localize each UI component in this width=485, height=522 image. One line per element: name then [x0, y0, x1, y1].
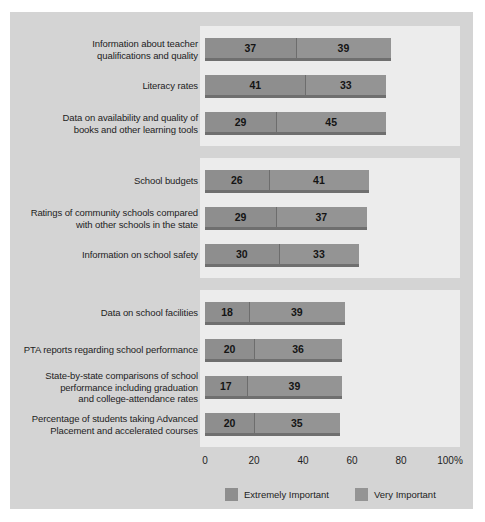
x-axis-tick-label: 60 [346, 455, 357, 466]
bar-row-label-line: Placement and accelerated courses [18, 424, 198, 436]
bar-row: State-by-state comparisons of schoolperf… [10, 376, 473, 398]
bar-value-extremely-important: 20 [205, 413, 254, 433]
bar-row: School budgets2641 [10, 170, 473, 192]
bar-row-label-line: qualifications and quality [18, 49, 198, 61]
bar-row-label-line: Ratings of community schools compared [18, 207, 198, 219]
x-axis-tick-label: 100% [437, 455, 463, 466]
bar-row-label: Data on school facilities [18, 307, 198, 319]
bar-row-label-line: Information on school safety [18, 249, 198, 261]
bar-value-extremely-important: 18 [205, 302, 249, 322]
bar-row-label: Percentage of students taking AdvancedPl… [18, 413, 198, 436]
bar-row: Information on school safety3033 [10, 244, 473, 266]
bar-row-label: Information on school safety [18, 249, 198, 261]
bar-shadow [205, 132, 386, 135]
bar-shadow [205, 227, 367, 230]
chart-card: Information about teacherqualifications … [10, 12, 473, 509]
bar-value-extremely-important: 20 [205, 339, 254, 359]
bar-row-label-line: State-by-state comparisons of school [18, 370, 198, 382]
bar-value-very-important: 41 [269, 170, 369, 190]
bar-row: Literacy rates4133 [10, 75, 473, 97]
legend-swatch [225, 488, 238, 501]
stacked-bar: 3033 [205, 244, 359, 266]
bar-value-very-important: 33 [279, 244, 360, 264]
bar-row: PTA reports regarding school performance… [10, 339, 473, 361]
x-axis: 020406080100% [10, 455, 473, 473]
bar-value-extremely-important: 37 [205, 38, 296, 58]
bar-shadow [205, 58, 391, 61]
x-axis-tick-label: 0 [202, 455, 208, 466]
bar-row-label: Data on availability and quality ofbooks… [18, 112, 198, 135]
bar-row-label: State-by-state comparisons of schoolperf… [18, 370, 198, 405]
bar-row-label: PTA reports regarding school performance [18, 344, 198, 356]
bar-row-label-line: Data on availability and quality of [18, 112, 198, 124]
stacked-bar: 1839 [205, 302, 345, 324]
stacked-bar: 2945 [205, 112, 386, 134]
chart-legend: Extremely ImportantVery Important [10, 486, 473, 506]
bar-shadow [205, 322, 345, 325]
bar-shadow [205, 433, 340, 436]
stacked-bar: 2036 [205, 339, 342, 361]
bar-row: Percentage of students taking AdvancedPl… [10, 413, 473, 435]
stacked-bar: 2035 [205, 413, 340, 435]
bar-value-extremely-important: 30 [205, 244, 279, 264]
stacked-bar: 4133 [205, 75, 386, 97]
bar-row: Data on availability and quality ofbooks… [10, 112, 473, 134]
legend-item[interactable]: Very Important [355, 486, 436, 502]
x-axis-tick-label: 20 [248, 455, 259, 466]
chart-figure: Information about teacherqualifications … [0, 0, 485, 522]
bar-row-label-line: books and other learning tools [18, 123, 198, 135]
bar-row-label-line: Information about teacher [18, 38, 198, 50]
bar-value-extremely-important: 41 [205, 75, 305, 95]
bar-shadow [205, 359, 342, 362]
legend-label: Very Important [374, 489, 436, 500]
stacked-bar: 2641 [205, 170, 369, 192]
bar-value-very-important: 39 [249, 302, 345, 322]
bar-value-very-important: 36 [254, 339, 342, 359]
bar-row: Data on school facilities1839 [10, 302, 473, 324]
bar-row-label-line: Literacy rates [18, 80, 198, 92]
stacked-bar: 1739 [205, 376, 342, 398]
bar-row-label-line: PTA reports regarding school performance [18, 344, 198, 356]
bar-row-label-line: with other schools in the state [18, 218, 198, 230]
bar-value-very-important: 37 [276, 207, 367, 227]
bar-value-very-important: 39 [247, 376, 343, 396]
bar-shadow [205, 190, 369, 193]
stacked-bar: 3739 [205, 38, 391, 60]
bar-value-very-important: 33 [305, 75, 386, 95]
bar-row-label-line: School budgets [18, 175, 198, 187]
legend-label: Extremely Important [244, 489, 329, 500]
x-axis-tick-label: 40 [297, 455, 308, 466]
legend-swatch [355, 488, 368, 501]
x-axis-tick-label: 80 [395, 455, 406, 466]
bar-row-label-line: performance including graduation [18, 381, 198, 393]
bar-value-very-important: 39 [296, 38, 392, 58]
bar-row-label: School budgets [18, 175, 198, 187]
bar-row-label: Ratings of community schools comparedwit… [18, 207, 198, 230]
bar-row-label: Literacy rates [18, 80, 198, 92]
bar-shadow [205, 396, 342, 399]
bar-row-label-line: and college-attendance rates [18, 393, 198, 405]
bar-shadow [205, 95, 386, 98]
bar-row-label-line: Data on school facilities [18, 307, 198, 319]
bar-shadow [205, 264, 359, 267]
legend-item[interactable]: Extremely Important [225, 486, 329, 502]
bar-value-very-important: 35 [254, 413, 340, 433]
bar-value-extremely-important: 29 [205, 207, 276, 227]
bar-row-label: Information about teacherqualifications … [18, 38, 198, 61]
stacked-bar: 2937 [205, 207, 367, 229]
bar-row-label-line: Percentage of students taking Advanced [18, 413, 198, 425]
bar-value-very-important: 45 [276, 112, 386, 132]
bar-row: Ratings of community schools comparedwit… [10, 207, 473, 229]
bar-value-extremely-important: 29 [205, 112, 276, 132]
bar-row: Information about teacherqualifications … [10, 38, 473, 60]
bar-value-extremely-important: 26 [205, 170, 269, 190]
bar-value-extremely-important: 17 [205, 376, 247, 396]
